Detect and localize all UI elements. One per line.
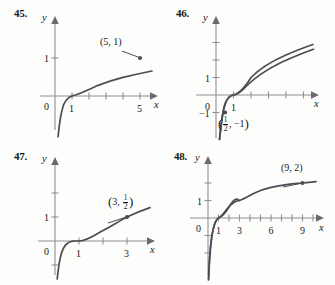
x-tick-label-6: 6 [269,225,274,236]
fraction-one-half: 12 [123,194,129,210]
marked-point [223,110,227,114]
log-curve [57,208,150,279]
origin-label: 0 [196,223,201,234]
paren-close: ) [245,116,249,131]
exercise-45-number: 45. [14,7,27,19]
fraction-numerator: 1 [123,194,129,202]
label-leader-line [122,51,138,57]
y-axis-arrowhead [51,16,59,24]
exercise-48-number: 48. [174,150,187,162]
y-axis-arrowhead [51,157,59,165]
exercise-48-graph: x y 0 1 3 6 9 1 [168,143,335,285]
y-axis-arrowhead [204,156,212,164]
x-tick-label-3: 3 [237,225,242,236]
coordinate-lead: 3, [112,196,122,207]
figure-page: 45. x y 0 1 5 [0,0,335,285]
y-tick-label-1: 1 [44,212,49,223]
fraction-denominator: 2 [223,124,229,133]
y-axis-label: y [41,12,47,23]
x-tick-label-1: 1 [216,225,221,236]
exercise-45-graph: x y 0 1 5 1 [0,0,168,143]
exercise-47-graph: x y 0 1 3 1 [0,143,168,285]
exercise-45-panel: 45. x y 0 1 5 [0,0,168,143]
fraction-numerator: 1 [223,116,229,124]
point-coordinate-label: (3, 12) [108,194,133,211]
point-coordinate-label: (12, −1) [218,116,249,133]
exercise-46-number: 46. [176,7,189,19]
x-axis-label: x [318,222,324,233]
exercise-46-panel: 46. x y 0 [168,0,335,143]
origin-label: 0 [44,246,49,257]
log-curve [209,199,240,280]
x-tick-label-3: 3 [124,248,129,259]
exercise-47-panel: 47. x y 0 1 3 1 [0,143,168,285]
exercise-46-graph: x y 0 1 1 −1 [168,0,335,143]
point-coordinate-label: (5, 1) [100,37,122,47]
y-axis-label: y [41,153,47,164]
y-tick-label-1: 1 [44,53,49,64]
marked-point [138,56,142,60]
paren-open: ( [108,194,112,209]
x-axis-arrowhead [316,214,324,222]
x-tick-label-1: 1 [231,102,236,113]
point-coordinate-label: (9, 2) [281,163,303,173]
x-axis-label: x [153,99,159,110]
paren-close: ) [129,194,133,209]
marked-point [300,181,304,185]
y-tick-label-1: 1 [205,73,210,84]
x-tick-label-5: 5 [137,103,142,114]
x-tick-label-9: 9 [300,225,305,236]
origin-label: 0 [44,101,49,112]
paren-open: ( [218,116,222,131]
y-axis-label: y [202,12,208,23]
y-axis-arrowhead [212,16,220,24]
exercise-48-panel: 48. [168,143,335,285]
coordinate-rest: , −1 [229,118,245,129]
x-tick-label-1: 1 [76,248,81,259]
x-axis-label: x [149,244,155,255]
x-tick-label-1: 1 [69,103,74,114]
x-axis-label: x [313,98,319,109]
y-tick-label-1: 1 [197,196,202,207]
marked-point [125,215,129,219]
y-axis-label: y [194,152,200,163]
exercise-47-number: 47. [14,150,27,162]
fraction-one-half: 12 [223,116,229,132]
fraction-denominator: 2 [123,202,129,211]
y-tick-label-neg1: −1 [199,108,210,119]
